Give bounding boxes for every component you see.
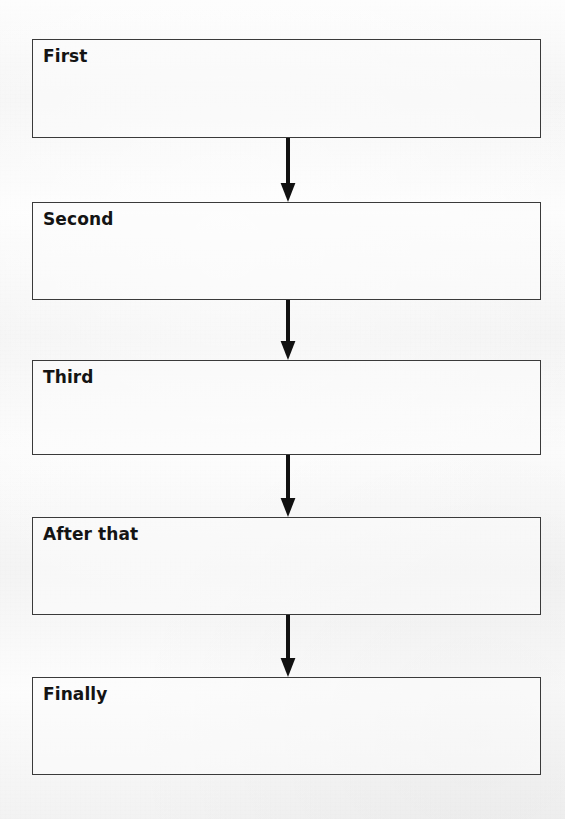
down-arrow-icon xyxy=(280,455,296,517)
flowchart-page: First Second Third After that xyxy=(0,0,565,819)
flowchart-node-label: First xyxy=(43,47,88,67)
flowchart-node-after-that[interactable]: After that xyxy=(32,517,541,615)
down-arrow-icon xyxy=(280,138,296,202)
arrow-third-to-after-that xyxy=(280,455,296,517)
flowchart-node-third[interactable]: Third xyxy=(32,360,541,455)
flowchart-node-label: After that xyxy=(43,525,138,545)
flowchart-node-label: Second xyxy=(43,210,113,230)
flowchart-node-second[interactable]: Second xyxy=(32,202,541,300)
flowchart-node-label: Finally xyxy=(43,685,107,705)
down-arrow-icon xyxy=(280,615,296,677)
arrow-first-to-second xyxy=(280,138,296,202)
arrow-after-that-to-finally xyxy=(280,615,296,677)
flowchart-node-finally[interactable]: Finally xyxy=(32,677,541,775)
down-arrow-icon xyxy=(280,300,296,360)
flowchart-node-label: Third xyxy=(43,368,94,388)
flowchart-node-first[interactable]: First xyxy=(32,39,541,138)
arrow-second-to-third xyxy=(280,300,296,360)
